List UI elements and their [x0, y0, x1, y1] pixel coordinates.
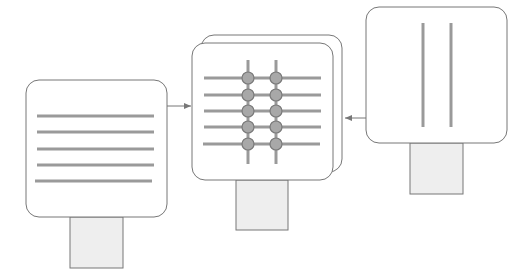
- center-stamp: [192, 35, 342, 230]
- diagram-canvas: [0, 0, 530, 278]
- right-panel: [366, 7, 507, 143]
- left-stem: [70, 217, 123, 268]
- right-stamp: [366, 7, 507, 194]
- right-stem: [410, 143, 463, 194]
- center-stem: [236, 180, 288, 230]
- left-stamp: [26, 80, 167, 268]
